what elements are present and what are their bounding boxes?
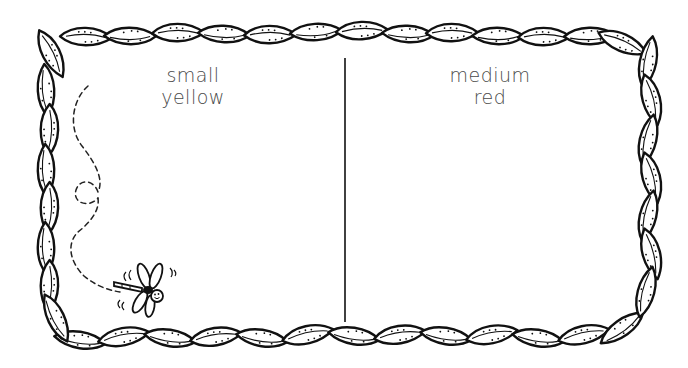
dragonfly-icon (114, 262, 176, 317)
left-panel-color: yellow (130, 86, 256, 108)
right-panel-size: medium (430, 64, 550, 86)
top-vine (59, 20, 649, 64)
right-panel-color: red (430, 86, 550, 108)
left-panel-size: small (130, 64, 256, 86)
left-panel-label: small yellow (130, 64, 256, 108)
leaf-vine-frame-icon (0, 0, 688, 368)
right-panel-label: medium red (430, 64, 550, 108)
worksheet-page: small yellow medium red (0, 0, 688, 368)
bottom-vine (53, 305, 647, 351)
left-vine (34, 26, 76, 345)
flight-path (71, 86, 120, 292)
right-vine (633, 35, 664, 319)
